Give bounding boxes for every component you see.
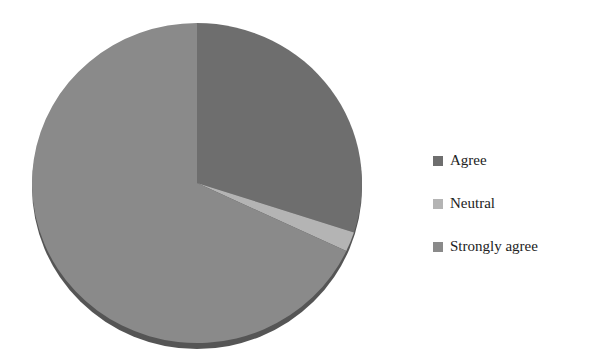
legend: Agree Neutral Strongly agree (433, 150, 538, 279)
legend-swatch-agree (433, 156, 443, 166)
legend-swatch-neutral (433, 199, 443, 209)
pie-slices (32, 23, 362, 343)
legend-label: Agree (450, 152, 487, 169)
legend-label: Strongly agree (450, 238, 538, 255)
legend-swatch-strongly-agree (433, 242, 443, 252)
legend-item-agree: Agree (433, 150, 538, 171)
legend-item-strongly-agree: Strongly agree (433, 236, 538, 257)
legend-item-neutral: Neutral (433, 193, 538, 214)
legend-label: Neutral (450, 195, 495, 212)
